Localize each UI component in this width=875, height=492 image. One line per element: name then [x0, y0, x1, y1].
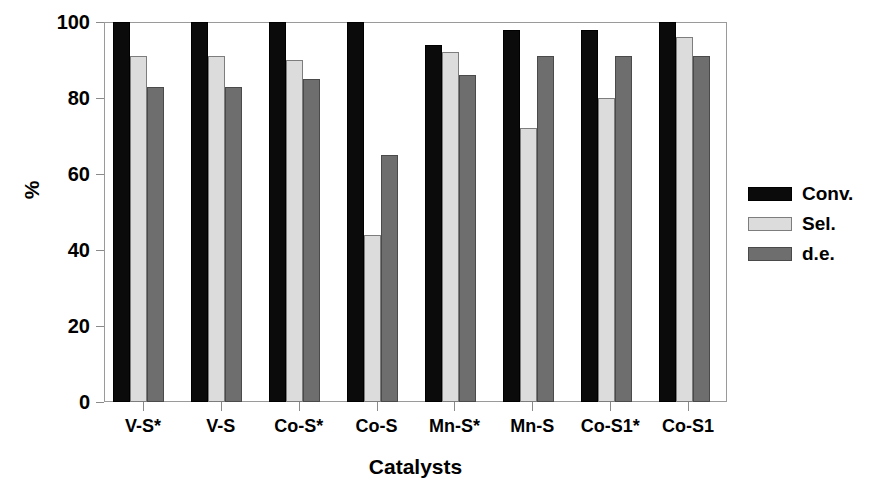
- y-axis-tick: [96, 22, 104, 23]
- bar-sel-cos1: [598, 98, 615, 402]
- x-axis-tick-label: V-S*: [125, 416, 161, 437]
- y-axis-tick-label: 60: [48, 164, 90, 184]
- x-axis-tick: [610, 402, 611, 411]
- bar-sel-vs: [208, 56, 225, 402]
- bar-chart-figure: % 020406080100 V-S*V-SCo-S*Co-SMn-S*Mn-S…: [0, 0, 875, 492]
- light-gray-swatch: [748, 217, 792, 231]
- bars-layer: [104, 22, 727, 402]
- y-axis-tick-label: 0: [48, 392, 90, 412]
- y-axis-tick: [96, 250, 104, 251]
- bar-de-cos: [303, 79, 320, 402]
- x-axis-tick-label: Co-S: [356, 416, 398, 437]
- bar-sel-mns: [520, 128, 537, 402]
- legend-item: d.e.: [748, 241, 853, 266]
- x-axis-tick: [143, 402, 144, 411]
- y-axis-tick-label: 100: [48, 12, 90, 32]
- bar-de-mns: [537, 56, 554, 402]
- dark-gray-swatch: [748, 247, 792, 261]
- chart-legend: Conv.Sel.d.e.: [748, 181, 853, 271]
- y-axis-tick: [96, 174, 104, 175]
- bar-de-cos1: [693, 56, 710, 402]
- bar-sel-cos: [286, 60, 303, 402]
- legend-label: d.e.: [802, 243, 835, 265]
- y-axis-tick-label: 80: [48, 88, 90, 108]
- bar-conv-mns: [425, 45, 442, 402]
- y-axis-title: %: [20, 160, 44, 220]
- y-axis-tick-label: 40: [48, 240, 90, 260]
- black-swatch: [748, 187, 792, 201]
- x-axis-tick-label: Mn-S: [510, 416, 554, 437]
- x-axis-tick-label: Co-S*: [274, 416, 323, 437]
- x-axis-title: Catalysts: [104, 455, 727, 479]
- bar-conv-vs: [113, 22, 130, 402]
- bar-conv-cos1: [581, 30, 598, 402]
- bar-conv-mns: [503, 30, 520, 402]
- legend-item: Sel.: [748, 211, 853, 236]
- x-axis-tick-label: Co-S1*: [581, 416, 640, 437]
- bar-de-cos1: [615, 56, 632, 402]
- bar-conv-cos: [269, 22, 286, 402]
- x-axis-tick-label: Co-S1: [662, 416, 714, 437]
- bar-conv-cos: [347, 22, 364, 402]
- y-axis-tick: [96, 98, 104, 99]
- bar-de-vs: [147, 87, 164, 402]
- x-axis-tick: [688, 402, 689, 411]
- bar-sel-mns: [442, 52, 459, 402]
- y-axis-tick: [96, 402, 104, 403]
- bar-de-cos: [381, 155, 398, 402]
- x-axis-tick-label: V-S: [206, 416, 235, 437]
- y-axis-tick: [96, 326, 104, 327]
- legend-item: Conv.: [748, 181, 853, 206]
- y-axis-tick-label: 20: [48, 316, 90, 336]
- legend-label: Sel.: [802, 213, 836, 235]
- bar-sel-cos1: [676, 37, 693, 402]
- bar-de-vs: [225, 87, 242, 402]
- legend-label: Conv.: [802, 183, 853, 205]
- x-axis-tick: [377, 402, 378, 411]
- x-axis-tick-label: Mn-S*: [429, 416, 480, 437]
- bar-conv-cos1: [659, 22, 676, 402]
- bar-de-mns: [459, 75, 476, 402]
- x-axis-tick: [532, 402, 533, 411]
- bar-conv-vs: [191, 22, 208, 402]
- bar-sel-vs: [130, 56, 147, 402]
- bar-sel-cos: [364, 235, 381, 402]
- x-axis-tick: [454, 402, 455, 411]
- x-axis-tick: [299, 402, 300, 411]
- x-axis-tick: [221, 402, 222, 411]
